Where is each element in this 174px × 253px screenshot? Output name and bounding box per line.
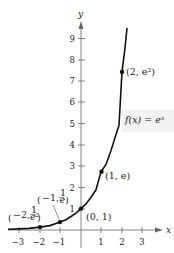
x-tick-label: 3 — [139, 237, 144, 247]
point-label-minus-2: ( −2, 1 e² ) — [8, 204, 41, 223]
x-axis-title: x — [166, 225, 171, 235]
x-tick-label: −3 — [12, 237, 25, 247]
svg-text:−1,: −1, — [42, 192, 59, 203]
svg-text:): ) — [65, 194, 69, 205]
x-tick-label: −2 — [33, 237, 46, 247]
y-tick-label: 5 — [70, 119, 75, 129]
point-label-minus-1: ( −1, 1 e ) — [37, 187, 69, 219]
y-tick-label: 7 — [70, 76, 75, 86]
point-marker — [79, 206, 83, 210]
function-label: f(x) = eˣ — [125, 114, 164, 125]
x-tick-label: −1 — [53, 237, 66, 247]
y-axis-arrow-icon — [79, 21, 84, 29]
point-marker — [99, 170, 103, 174]
y-tick-label: 4 — [70, 140, 75, 150]
svg-text:): ) — [37, 212, 41, 223]
x-tick-labels: −3 −2 −1 1 2 3 — [12, 237, 145, 247]
y-tick-label: 8 — [70, 55, 75, 65]
exponential-curve-smooth — [101, 28, 127, 172]
point-label-2: (2, e²) — [126, 66, 155, 77]
y-tick-label: 6 — [70, 97, 75, 107]
svg-text:(: ( — [8, 212, 12, 223]
point-marker — [58, 220, 62, 224]
svg-text:−2,: −2, — [13, 209, 30, 220]
x-tick-label: 1 — [98, 237, 103, 247]
x-axis-arrow-icon — [155, 228, 163, 233]
y-ticks — [78, 39, 85, 210]
x-tick-label: 2 — [119, 237, 124, 247]
y-tick-label: 3 — [70, 161, 75, 171]
point-label-0: (0, 1) — [86, 211, 112, 222]
y-axis-title: y — [77, 9, 84, 19]
point-label-1: (1, e) — [105, 170, 130, 181]
y-tick-label: 2 — [70, 183, 75, 193]
point-marker — [120, 70, 124, 74]
y-tick-label: 1 — [70, 204, 75, 214]
point-marker — [38, 225, 42, 229]
svg-text:(: ( — [37, 194, 41, 205]
y-tick-label: 9 — [70, 34, 75, 44]
y-tick-labels: 1 2 3 4 5 6 7 8 9 — [70, 34, 75, 215]
